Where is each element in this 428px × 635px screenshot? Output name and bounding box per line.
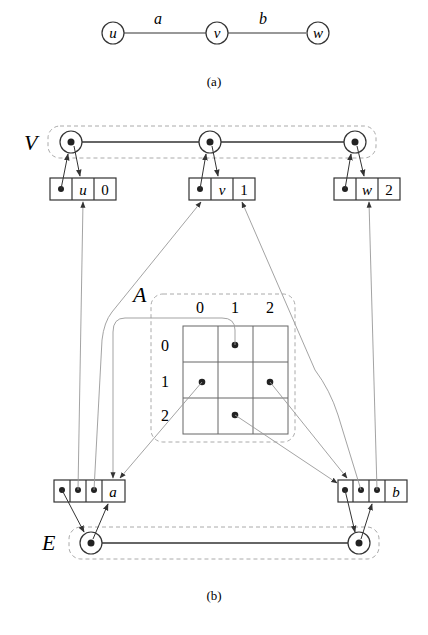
- vertex-w: w: [307, 22, 329, 44]
- matrix-container: [151, 294, 295, 442]
- edge-record-a: a: [54, 480, 125, 502]
- pointer-dot: [68, 139, 75, 146]
- vertex-record-v: v 1: [189, 178, 255, 200]
- vertex-list-node-w: [344, 131, 366, 153]
- vertex-record-name: v: [219, 182, 226, 198]
- vertex-record-index: 0: [101, 182, 109, 198]
- vertex-record-w: w 2: [334, 178, 400, 200]
- row-header: 0: [161, 337, 169, 354]
- vertex-u: u: [102, 22, 124, 44]
- row-header: 1: [161, 373, 169, 390]
- vertex-v: v: [206, 22, 228, 44]
- edge-b-label: b: [259, 10, 267, 27]
- col-header: 1: [231, 299, 239, 316]
- pointer-dot: [207, 139, 214, 146]
- vertex-record-index: 2: [385, 182, 393, 198]
- edge-list-label: E: [41, 530, 56, 555]
- caption-b: (b): [206, 588, 221, 603]
- matrix-row-headers: 0 1 2: [161, 337, 169, 424]
- vertex-record-name: u: [79, 182, 87, 198]
- pointer-dot: [88, 540, 95, 547]
- vertex-w-label: w: [313, 25, 323, 41]
- col-header: 0: [196, 299, 204, 316]
- pointer-dot: [352, 139, 359, 146]
- edge-record-name: b: [392, 484, 400, 500]
- edge-record-name: a: [109, 484, 117, 500]
- vertex-record-name: w: [362, 182, 372, 198]
- vertex-list-label: V: [24, 130, 40, 155]
- edge-list-node-b: [348, 532, 370, 554]
- vertex-u-label: u: [109, 25, 117, 41]
- pointer-dot: [356, 540, 363, 547]
- col-header: 2: [266, 299, 274, 316]
- edge-a-label: a: [154, 10, 162, 27]
- vertex-record-index: 1: [240, 182, 248, 198]
- edge-list-node-a: [80, 532, 102, 554]
- matrix-col-headers: 0 1 2: [196, 299, 274, 316]
- caption-a: (a): [207, 74, 221, 89]
- graph-figure-b: V u 0 v 1: [24, 126, 407, 603]
- graph-figure-a: u v w a b (a): [102, 10, 329, 89]
- edge-record-b: b: [338, 480, 407, 502]
- vertex-v-label: v: [214, 25, 221, 41]
- vertex-list-node-v: [199, 131, 221, 153]
- adjacency-matrix-diagram: u v w a b (a) V: [0, 0, 428, 635]
- vertex-list-node-u: [60, 131, 82, 153]
- matrix-filled-cells: [199, 342, 274, 419]
- vertex-record-u: u 0: [50, 178, 116, 200]
- gray-pointer-lines: [78, 202, 377, 490]
